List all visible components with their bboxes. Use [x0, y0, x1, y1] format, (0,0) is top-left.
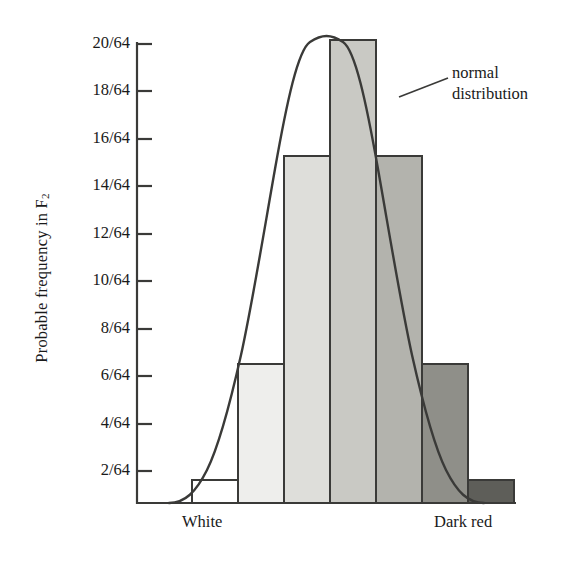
bar-2 [238, 364, 284, 503]
bar-7 [468, 480, 514, 503]
histogram-bars [192, 40, 514, 503]
y-axis-ticks [137, 44, 152, 471]
bar-4 [330, 40, 376, 503]
normal-distribution-annotation: normal distribution [452, 62, 528, 104]
genetics-histogram-figure: Probable frequency in F2 20/64 18/64 16/… [0, 0, 568, 561]
bar-6 [422, 364, 468, 503]
x-tick-label-white: White [182, 512, 222, 532]
bar-5 [376, 156, 422, 503]
annotation-line-2: distribution [452, 83, 528, 104]
x-tick-label-dark-red: Dark red [434, 512, 492, 532]
annotation-leader-line [399, 78, 448, 97]
annotation-line-1: normal [452, 62, 528, 83]
bar-3 [284, 156, 330, 503]
